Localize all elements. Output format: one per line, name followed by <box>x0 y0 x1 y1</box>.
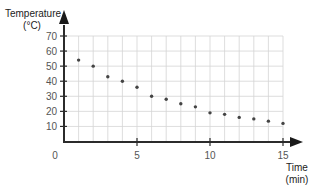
y-tick-label: 70 <box>46 31 58 42</box>
x-axis-arrow-icon <box>290 137 303 147</box>
data-point <box>238 116 241 119</box>
data-point <box>77 58 80 61</box>
data-point <box>208 111 211 114</box>
y-tick-label: 30 <box>46 91 58 102</box>
data-point <box>121 80 124 83</box>
data-point <box>194 105 197 108</box>
data-point <box>150 95 153 98</box>
data-point <box>223 113 226 116</box>
data-point <box>252 117 255 120</box>
y-tick-label: 10 <box>46 121 58 132</box>
data-point <box>92 64 95 67</box>
data-point <box>179 102 182 105</box>
x-tick-label: 5 <box>134 150 140 161</box>
y-tick-label: 20 <box>46 106 58 117</box>
data-point <box>106 75 109 78</box>
grid-lines <box>64 36 283 142</box>
y-tick-label: 50 <box>46 61 58 72</box>
data-point <box>281 122 284 125</box>
y-tick-label: 40 <box>46 76 58 87</box>
data-point <box>135 86 138 89</box>
y-tick-label: 60 <box>46 46 58 57</box>
x-tick-label: 0 <box>52 150 58 161</box>
x-tick-label: 15 <box>277 150 289 161</box>
x-axis-title-line2: (min) <box>286 174 309 185</box>
data-point <box>267 119 270 122</box>
data-point <box>165 98 168 101</box>
x-axis-title-line1: Time <box>286 162 308 173</box>
temperature-time-chart: 10203040506070051015 Temperature (°C) Ti… <box>0 0 310 185</box>
y-axis-title-line2: (°C) <box>23 20 41 31</box>
x-tick-label: 10 <box>204 150 216 161</box>
y-axis-title-line1: Temperature <box>5 8 62 19</box>
